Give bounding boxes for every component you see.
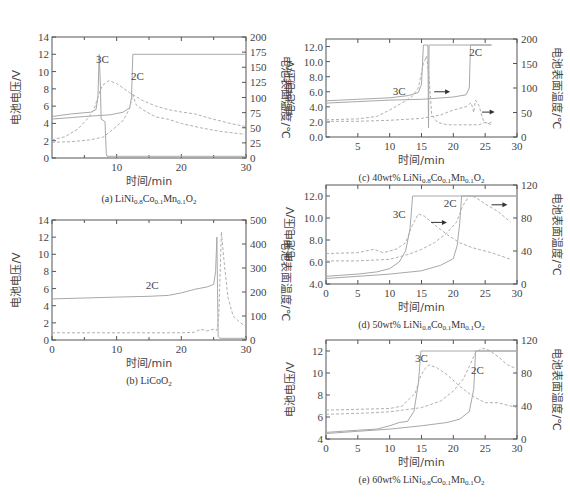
series-3c-temperature: [326, 56, 492, 125]
y-left-tick-label: 10: [38, 248, 50, 260]
plot-frame: [326, 185, 517, 284]
x-tick-label: 10: [111, 161, 123, 173]
y-axis-left: 4681012: [312, 345, 330, 445]
y-left-tick-label: 10.0: [304, 56, 324, 68]
y-left-tick-label: 2.0: [309, 116, 323, 128]
y-right-tick-label: 100: [250, 92, 267, 104]
y-right-tick-label: 125: [250, 76, 267, 88]
y-right-tick-label: 40: [521, 400, 533, 412]
x-axis-title: 时间/min: [398, 301, 444, 314]
y-left-tick-label: 2: [44, 317, 50, 329]
y-left-tick-label: 8: [318, 389, 324, 401]
x-tick-label: 15: [416, 140, 428, 152]
x-tick-label: 20: [176, 161, 188, 173]
series-3c-voltage: [326, 196, 517, 276]
y-right-tick-label: 200: [250, 286, 267, 298]
y-axis-left: 02468101214: [38, 31, 56, 164]
y-left-tick-label: 10: [38, 66, 50, 78]
x-tick-label: 20: [176, 343, 188, 355]
chart-caption: (c) 40wt% LiNi0.8Co0.1Mn0.1O2: [359, 172, 485, 185]
series-2c-voltage: [52, 54, 246, 119]
y-left-tick-label: 12: [312, 345, 323, 357]
y-left-axis-title: 电池电压/V: [284, 361, 297, 417]
y-right-tick-label: 200: [250, 31, 267, 43]
y-right-tick-label: 80: [521, 367, 533, 379]
arrowhead-icon: [490, 110, 495, 115]
y-left-tick-label: 14: [38, 31, 50, 43]
caption-subscript: 2: [481, 324, 485, 332]
caption-text: O: [474, 172, 481, 183]
y-left-tick-label: 6: [44, 100, 50, 112]
y-right-tick-label: 0: [521, 278, 527, 290]
caption-text: Mn: [451, 172, 465, 183]
y-right-axis-title: 电池表面温度/℃: [550, 348, 564, 430]
series-2c-temperature: [326, 100, 492, 123]
chart-caption: (a) LiNi0.8Co0.1Mn0.1O2: [101, 193, 197, 206]
x-axis-title: 时间/min: [398, 154, 444, 167]
x-axis: 051015202530: [323, 185, 523, 299]
y-left-tick-label: 12: [38, 231, 49, 243]
arrowhead-icon: [442, 220, 447, 225]
y-left-tick-label: 8.0: [309, 71, 323, 83]
y-left-tick-label: 6: [44, 283, 50, 295]
y-right-tick-label: 120: [521, 179, 538, 191]
y-left-tick-label: 0.0: [309, 131, 323, 143]
y-left-tick-label: 4: [44, 300, 50, 312]
caption-subscript: 2: [481, 177, 485, 185]
series-3c-voltage: [326, 45, 492, 128]
y-right-tick-label: 50: [250, 122, 262, 134]
y-right-tick-label: 0: [521, 131, 527, 143]
y-left-tick-label: 14: [38, 214, 50, 226]
x-tick-label: 20: [448, 442, 460, 454]
x-axis: 51015202530: [355, 39, 523, 152]
annotation-label: 2C: [469, 46, 482, 58]
y-left-tick-label: 10: [312, 367, 324, 379]
annotation-label: 3C: [415, 352, 428, 364]
chart-caption: (d) 50wt% LiNi0.8Co0.1Mn0.1O2: [358, 319, 485, 332]
y-right-tick-label: 40: [521, 245, 533, 257]
x-tick-label: 15: [416, 287, 428, 299]
x-axis-title: 时间/min: [126, 175, 172, 188]
x-tick-label: 25: [480, 287, 492, 299]
caption-text: O: [474, 319, 481, 330]
y-left-tick-label: 6: [318, 411, 324, 423]
y-left-tick-label: 0: [44, 334, 50, 346]
y-left-tick-label: 12: [38, 48, 49, 60]
y-right-tick-label: 200: [521, 33, 538, 45]
x-axis: 102030: [84, 37, 252, 173]
x-tick-label: 5: [355, 287, 361, 299]
x-axis-title: 时间/min: [126, 357, 172, 370]
y-left-tick-label: 6.0: [309, 86, 323, 98]
x-tick-label: 10: [111, 343, 123, 355]
caption-text: Co: [143, 193, 155, 204]
caption-text: (c) 40wt% LiNi: [359, 172, 423, 184]
y-left-tick-label: 12.0: [304, 41, 324, 53]
annotation-label: 3C: [393, 85, 406, 97]
caption-text: Mn: [451, 319, 465, 330]
x-tick-label: 25: [480, 140, 492, 152]
y-right-tick-label: 25: [250, 137, 262, 149]
y-left-tick-label: 6.0: [309, 256, 323, 268]
y-right-tick-label: 80: [521, 212, 533, 224]
y-right-tick-label: 0: [521, 433, 527, 445]
y-right-tick-label: 120: [521, 334, 538, 346]
chart-panel-b: 01020300246810121401002003004005002C时间/m…: [10, 214, 293, 388]
y-right-tick-label: 100: [521, 82, 538, 94]
x-tick-label: 20: [448, 287, 460, 299]
series-3c-temperature: [326, 365, 517, 410]
x-tick-label: 0: [323, 287, 329, 299]
chart-panel-a: 1020300246810121402550751001251501752003…: [10, 31, 293, 206]
caption-subscript: 2: [168, 380, 172, 388]
y-left-axis-title: 电池电压/V: [10, 69, 23, 125]
y-left-axis-title: 电池电压/V: [284, 60, 297, 116]
x-axis-title: 时间/min: [398, 456, 444, 469]
y-right-tick-label: 100: [250, 310, 267, 322]
series-2c-temperature: [326, 196, 511, 261]
y-left-tick-label: 4.0: [309, 101, 323, 113]
y-left-tick-label: 12.0: [304, 190, 324, 202]
arrowhead-icon: [445, 89, 450, 94]
plot-frame: [326, 39, 517, 137]
arrowhead-icon: [502, 202, 507, 207]
annotation-label: 3C: [393, 208, 406, 220]
chart-panel-e: 0510152025304681012040801203C2C时间/min电池电…: [284, 334, 564, 487]
